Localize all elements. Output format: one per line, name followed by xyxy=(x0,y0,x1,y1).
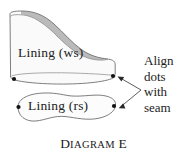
lower-left-dot xyxy=(16,105,20,109)
label-lining-ws: Lining (ws) xyxy=(18,46,84,60)
caption-word-rest: IAGRAM xyxy=(70,139,115,150)
arrow-to-lower-dot-line xyxy=(121,90,141,107)
diagram-caption: DIAGRAM E xyxy=(0,136,187,152)
callout-line-4: seam xyxy=(144,100,187,116)
caption-letter-e: E xyxy=(118,136,126,151)
callout-line-1: Align xyxy=(144,53,187,69)
upper-piece-left-edge xyxy=(10,14,11,78)
callout-line-2: dots xyxy=(144,69,187,85)
arrow-to-upper-dot-head xyxy=(118,77,125,82)
upper-left-dot xyxy=(12,77,16,81)
caption-initial: D xyxy=(60,136,70,151)
callout-line-3: with xyxy=(144,84,187,100)
lower-right-dot xyxy=(112,104,116,108)
upper-right-dot xyxy=(111,74,115,78)
callout-arrows xyxy=(118,77,142,109)
label-lining-rs: Lining (rs) xyxy=(28,99,88,113)
callout-align-dots-with-seam: Align dots with seam xyxy=(144,53,187,115)
diagram-figure: Lining (ws) Lining (rs) Align dots with … xyxy=(0,0,187,160)
